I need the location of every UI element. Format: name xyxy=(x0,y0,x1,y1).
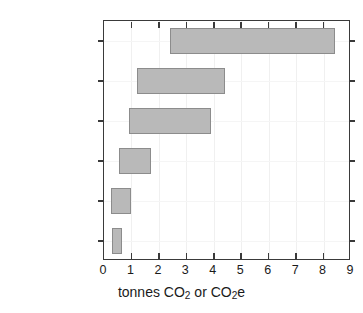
x-tick-bottom xyxy=(323,253,325,259)
x-tick-bottom xyxy=(295,253,297,259)
y-tick-right xyxy=(349,80,355,82)
y-tick-left xyxy=(98,40,104,42)
gridline-vertical xyxy=(131,21,132,259)
y-tick-right xyxy=(349,120,355,122)
y-tick-left xyxy=(98,240,104,242)
x-tick-label: 2 xyxy=(146,263,170,277)
x-tick-label: 3 xyxy=(173,263,197,277)
x-tick-label: 4 xyxy=(201,263,225,277)
x-tick-bottom xyxy=(186,253,188,259)
bar-1 xyxy=(137,68,225,94)
x-tick-label: 0 xyxy=(91,263,115,277)
x-tick-label: 7 xyxy=(283,263,307,277)
bar-0 xyxy=(170,28,335,54)
gridline-vertical xyxy=(241,21,242,259)
y-tick-right xyxy=(349,240,355,242)
y-tick-right xyxy=(349,160,355,162)
gridline-vertical xyxy=(159,21,160,259)
gridline-horizontal xyxy=(104,241,349,242)
gridline-vertical xyxy=(214,21,215,259)
gridline-vertical xyxy=(269,21,270,259)
y-tick-right xyxy=(349,40,355,42)
x-tick-label: 8 xyxy=(311,263,335,277)
x-tick-label: 5 xyxy=(228,263,252,277)
bar-chart: tonnes CO2 or CO2e 0123456789Plane, 1st … xyxy=(0,0,363,313)
y-tick-right xyxy=(349,200,355,202)
x-tick-bottom xyxy=(131,253,133,259)
x-tick-bottom xyxy=(240,253,242,259)
x-axis-title: tonnes CO2 or CO2e xyxy=(0,284,363,301)
bar-5 xyxy=(112,228,122,254)
x-tick-bottom xyxy=(268,253,270,259)
gridline-vertical xyxy=(324,21,325,259)
x-tick-bottom xyxy=(158,253,160,259)
x-tick-label: 6 xyxy=(256,263,280,277)
bar-4 xyxy=(111,188,132,214)
x-tick-bottom xyxy=(213,253,215,259)
y-tick-left xyxy=(98,200,104,202)
y-tick-left xyxy=(98,120,104,122)
x-tick-label: 1 xyxy=(118,263,142,277)
y-tick-left xyxy=(98,160,104,162)
plot-area xyxy=(103,20,350,260)
x-tick-top xyxy=(158,22,160,28)
gridline-vertical xyxy=(296,21,297,259)
bar-2 xyxy=(129,108,211,134)
y-tick-left xyxy=(98,80,104,82)
gridline-horizontal xyxy=(104,201,349,202)
bar-3 xyxy=(119,148,151,174)
x-tick-top xyxy=(131,22,133,28)
x-tick-label: 9 xyxy=(338,263,362,277)
gridline-vertical xyxy=(186,21,187,259)
